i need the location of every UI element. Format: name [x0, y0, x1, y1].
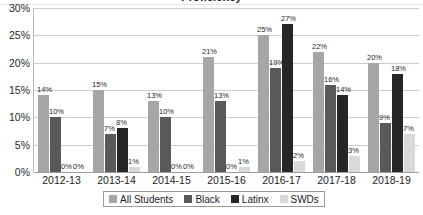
- y-axis-tick-label: 0%: [0, 167, 30, 177]
- bar-slot: 10%: [50, 8, 61, 172]
- bar-group: 14%10%0%0%: [34, 8, 89, 172]
- bar[interactable]: [282, 24, 293, 172]
- bar-slot: 10%: [160, 8, 171, 172]
- legend-item[interactable]: All Students: [109, 194, 173, 205]
- legend-label: Latinx: [242, 194, 269, 205]
- bar-group: 20%9%18%7%: [364, 8, 419, 172]
- bar-group: 13%10%0%0%: [144, 8, 199, 172]
- bar-slot: 3%: [349, 8, 360, 172]
- bar[interactable]: [93, 90, 104, 172]
- x-axis-tick-label: 2012-13: [34, 174, 89, 187]
- bar-group: 25%19%27%2%: [254, 8, 309, 172]
- y-axis-tick-label: 30%: [0, 3, 30, 13]
- bar[interactable]: [294, 161, 305, 172]
- bar[interactable]: [270, 68, 281, 172]
- bar[interactable]: [50, 117, 61, 172]
- bar-slot: 7%: [404, 8, 415, 172]
- bar-slot: 1%: [129, 8, 140, 172]
- bar[interactable]: [325, 85, 336, 172]
- bar-slot: 19%: [270, 8, 281, 172]
- bar-value-label: 0%: [183, 163, 194, 171]
- bar[interactable]: [203, 57, 214, 172]
- legend-swatch-icon: [280, 195, 288, 203]
- bar-slot: 21%: [203, 8, 214, 172]
- bar-value-label: 0%: [73, 163, 84, 171]
- bar-slot: 0%: [227, 8, 238, 172]
- x-axis-tick-label: 2013-14: [89, 174, 144, 187]
- bar[interactable]: [38, 95, 49, 172]
- legend-swatch-icon: [184, 195, 192, 203]
- bar-slot: 13%: [148, 8, 159, 172]
- bar[interactable]: [349, 156, 360, 172]
- x-axis-tick-label: 2014-15: [144, 174, 199, 187]
- bar-group: 22%16%14%3%: [309, 8, 364, 172]
- x-axis-tick-labels: 2012-132013-142014-152015-162016-172017-…: [34, 174, 419, 187]
- bar[interactable]: [105, 134, 116, 172]
- bar-value-label: 1%: [238, 158, 249, 166]
- bar[interactable]: [368, 63, 379, 172]
- bar-slot: 9%: [380, 8, 391, 172]
- bar[interactable]: [148, 101, 159, 172]
- bar-group: 15%7%8%1%: [89, 8, 144, 172]
- bar-value-label: 7%: [403, 125, 414, 133]
- legend-item[interactable]: Latinx: [231, 194, 269, 205]
- x-axis-tick-label: 2018-19: [364, 174, 419, 187]
- chart-screenshot: Proficiency 30%25%20%15%10%5%0% 14%10%0%…: [0, 0, 423, 215]
- y-axis-tick-label: 20%: [0, 58, 30, 68]
- bar-slot: 18%: [392, 8, 403, 172]
- legend-label: Black: [195, 194, 219, 205]
- legend-swatch-icon: [109, 195, 117, 203]
- bar[interactable]: [239, 167, 250, 172]
- bar-slot: 8%: [117, 8, 128, 172]
- chart-legend[interactable]: All StudentsBlackLatinxSWDs: [103, 191, 325, 207]
- bar-slot: 1%: [239, 8, 250, 172]
- bar-slot: 0%: [172, 8, 183, 172]
- bar-value-label: 8%: [116, 119, 127, 127]
- bar[interactable]: [337, 95, 348, 172]
- legend-item[interactable]: SWDs: [280, 194, 319, 205]
- bar-value-label: 1%: [128, 158, 139, 166]
- bar[interactable]: [313, 52, 324, 172]
- bar-slot: 16%: [325, 8, 336, 172]
- bar-value-label: 3%: [348, 147, 359, 155]
- bar[interactable]: [392, 74, 403, 172]
- x-axis-tick-label: 2016-17: [254, 174, 309, 187]
- bar[interactable]: [404, 134, 415, 172]
- bar[interactable]: [380, 123, 391, 172]
- bar-slot: 13%: [215, 8, 226, 172]
- gridline: [34, 172, 419, 173]
- bar-slot: 7%: [105, 8, 116, 172]
- legend-label: SWDs: [291, 194, 319, 205]
- legend-label: All Students: [120, 194, 173, 205]
- bar-slot: 0%: [62, 8, 73, 172]
- bar-slot: 0%: [184, 8, 195, 172]
- x-axis-tick-label: 2015-16: [199, 174, 254, 187]
- bar-value-label: 9%: [379, 114, 390, 122]
- bar[interactable]: [129, 167, 140, 172]
- bar-slot: 15%: [93, 8, 104, 172]
- y-axis-tick-label: 5%: [0, 140, 30, 150]
- chart-title: Proficiency: [0, 0, 423, 4]
- bar-slot: 22%: [313, 8, 324, 172]
- bar-value-label: 0%: [226, 163, 237, 171]
- bar[interactable]: [215, 101, 226, 172]
- bar-value-label: 7%: [104, 125, 115, 133]
- bar[interactable]: [258, 35, 269, 172]
- bar-value-label: 0%: [61, 163, 72, 171]
- bar-groups: 14%10%0%0%15%7%8%1%13%10%0%0%21%13%0%1%2…: [34, 8, 419, 172]
- y-axis-tick-label: 10%: [0, 112, 30, 122]
- bar-slot: 25%: [258, 8, 269, 172]
- bar-group: 21%13%0%1%: [199, 8, 254, 172]
- x-axis-tick-label: 2017-18: [309, 174, 364, 187]
- bar[interactable]: [117, 128, 128, 172]
- bar-slot: 27%: [282, 8, 293, 172]
- legend-item[interactable]: Black: [184, 194, 219, 205]
- bar[interactable]: [160, 117, 171, 172]
- y-axis-tick-label: 25%: [0, 30, 30, 40]
- bar-slot: 0%: [74, 8, 85, 172]
- bar-slot: 14%: [38, 8, 49, 172]
- bar-slot: 20%: [368, 8, 379, 172]
- scan-artifact-top: [0, 4, 423, 5]
- bar-value-label: 2%: [293, 152, 304, 160]
- bar-slot: 2%: [294, 8, 305, 172]
